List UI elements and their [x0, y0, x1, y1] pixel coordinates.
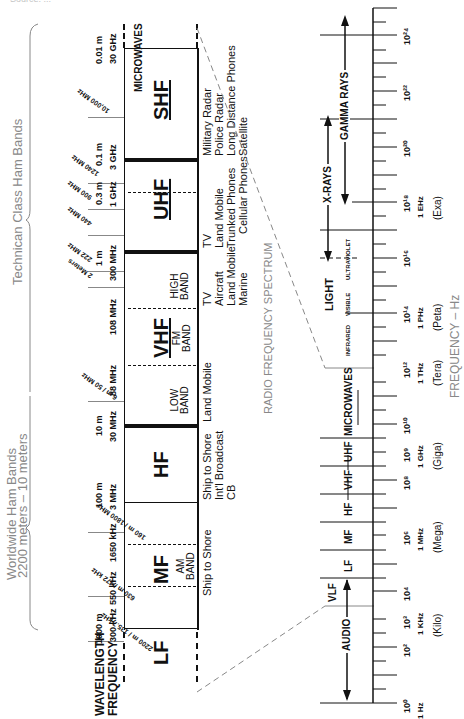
scale-unit: 1 PHz: [416, 307, 425, 329]
spectrum-vlf-label: VLF: [327, 583, 338, 602]
scale-exponent: 10²: [402, 644, 412, 657]
spectrum-mf-label: MF: [343, 530, 354, 544]
scale-prefix: (Mega): [432, 521, 443, 553]
spectrum-light-label: LIGHT: [323, 278, 335, 311]
frequency-hz-title: FREQUENCY – Hz: [448, 295, 462, 398]
scale-unit: 1 GHz: [416, 445, 425, 468]
scale-unit: 1 THz: [416, 363, 425, 384]
scale-exponent: 10¹⁶: [402, 250, 412, 267]
scale-prefix: (Tera): [432, 360, 443, 386]
scale-prefix: (Peta): [432, 304, 443, 331]
scale-prefix: (Kilo): [432, 614, 443, 637]
spectrum-infrared-label: INFRARED: [345, 325, 351, 356]
scale-unit: 1 EHz: [416, 196, 425, 218]
scale-exponent: 10¹²: [402, 362, 412, 378]
spectrum-vhf-label: VHF: [343, 470, 354, 490]
scale-prefix: (Giga): [432, 442, 443, 470]
spectrum-gamma-label: GAMMA RAYS: [339, 70, 350, 142]
scale-exponent: 10²⁴: [402, 28, 412, 45]
connector-dashed-lines: [0, 0, 464, 719]
spectrum-ultraviolet-label: ULTRAVIOLET: [345, 239, 351, 280]
scale-exponent: 10⁹: [402, 448, 412, 462]
scale-exponent: 10¹⁴: [402, 306, 412, 323]
spectrum-hf-label: HF: [343, 503, 354, 516]
scale-exponent: 10⁶: [402, 531, 412, 545]
spectrum-uhf-label: UHF: [343, 441, 354, 462]
scale-unit: 1 KHz: [416, 613, 425, 635]
scale-exponent: 10⁸: [402, 476, 412, 490]
scale-prefix: (Exa): [432, 196, 443, 220]
scale-unit: 1 MHz: [416, 528, 425, 551]
spectrum-xrays-label: X-RAYS: [322, 164, 333, 205]
scale-unit: 1 Hz: [416, 703, 425, 719]
scale-exponent: 10³: [402, 616, 412, 629]
spectrum-visible-label: VISIBLE: [345, 293, 351, 316]
scale-exponent: 10²²: [402, 85, 412, 101]
scale-exponent: 10¹⁸: [402, 195, 412, 212]
spectrum-lf-label: LF: [343, 560, 354, 572]
scale-exponent: 10⁰: [402, 699, 412, 713]
scale-exponent: 10⁴: [402, 587, 412, 601]
scale-exponent: 10¹⁰: [402, 417, 412, 434]
spectrum-microwaves-label: MICROWAVES: [343, 367, 354, 436]
spectrum-audio-label: AUDIO: [341, 617, 352, 653]
scale-exponent: 10²⁰: [402, 140, 412, 157]
radio-spectrum-title: RADIO FREQUENCY SPECTRUM: [262, 242, 274, 414]
